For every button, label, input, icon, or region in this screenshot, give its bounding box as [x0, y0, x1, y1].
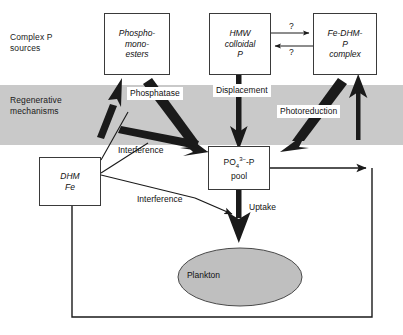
node-dhm-fe[interactable]: DHM Fe: [39, 157, 101, 206]
node-fe-dhm-p-complex[interactable]: Fe-DHM- P complex: [313, 13, 377, 75]
edge-label-displacement: Displacement: [213, 84, 271, 97]
interference-2-arrow: [195, 198, 232, 214]
edge-label-uptake: Uptake: [246, 201, 279, 214]
edge-label-interference-2: Interference: [134, 193, 185, 206]
phosphate-pool-label: pool: [231, 171, 247, 181]
node-phosphomonoesters[interactable]: Phospho- mono- esters: [104, 13, 170, 75]
node-phosphate-pool[interactable]: PO43−-P pool: [208, 146, 270, 190]
question-mark-top: ?: [289, 21, 294, 31]
question-mark-bottom: ?: [289, 47, 294, 57]
edge-label-interference-1: Interference: [115, 144, 166, 157]
uptake-arrow: [227, 190, 251, 243]
plankton-label: Plankton: [0, 270, 403, 280]
phosphate-formula: PO43−-P: [224, 157, 255, 167]
zone-label-regenerative: Regenerative mechanisms: [10, 95, 62, 117]
edge-label-phosphatase: Phosphatase: [127, 87, 183, 100]
edge-label-photoreduction: Photoreduction: [277, 105, 340, 118]
node-hmw-colloidal-p[interactable]: HMW colloidal P: [209, 13, 271, 75]
zone-label-complex-p: Complex P sources: [10, 32, 52, 54]
